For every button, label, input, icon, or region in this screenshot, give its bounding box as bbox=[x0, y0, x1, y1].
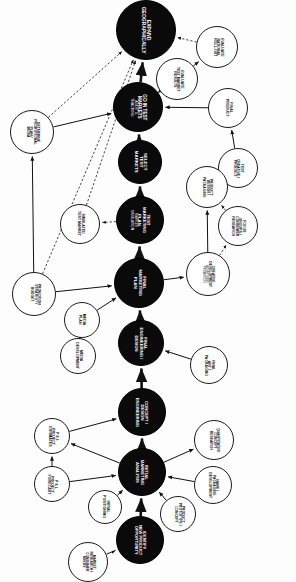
node-test-marketing-plan[interactable]: TESTMARKETINGPLANMARKETSIMULATION bbox=[116, 196, 164, 244]
edge-test-marketing-plan-to-simulated-test-market bbox=[102, 222, 116, 223]
label-line: FORECAST bbox=[47, 474, 51, 494]
label-line: PACKAGING bbox=[202, 177, 205, 197]
node-expand-geographically[interactable]: EXPANDGEOGRAPHICALLY bbox=[116, 0, 176, 60]
edge-market-research-consumer-needs-to-identify-opportunity bbox=[106, 550, 115, 554]
edge-product-prototype-concept-to-initial-marketing-analysis bbox=[159, 492, 166, 500]
node-final-engineering-design[interactable]: FINALENGINEERING /DESIGN bbox=[118, 320, 164, 366]
node-label-initial-positioning: INITIALPOSITIONING bbox=[101, 496, 108, 519]
node-label-creative-development: CREATIVEDEVELOPMENTADVERTISINGPROMOTION bbox=[202, 261, 214, 287]
node-concept-design-engineering[interactable]: CONCEPT /DESIGNENGINEERING bbox=[118, 388, 166, 436]
node-label-identify-opportunity: IDENTIFYNEW PRODUCTOPPORTUNITY bbox=[134, 525, 146, 555]
edge-determine-promotional-plan-media-to-expand-geographically bbox=[48, 52, 121, 118]
label-line: MARKETING bbox=[140, 459, 144, 484]
node-label-test-marketing-plan: TESTMARKETINGPLANMARKETSIMULATION bbox=[130, 207, 150, 233]
label-line: FINAL bbox=[228, 103, 232, 114]
node-simulated-test-market[interactable]: SIMULATEDTEST MARKET bbox=[60, 204, 100, 244]
label-line: PLAN bbox=[78, 315, 82, 325]
label-line: DEVELOPMENT bbox=[208, 472, 211, 498]
edge-final-art-packaging-to-final-engineering-design bbox=[165, 351, 191, 359]
edge-evaluate-test-market-results-to-evaluate-national-roll-out bbox=[193, 62, 198, 66]
node-label-expand-geographically: EXPANDGEOGRAPHICALLY bbox=[141, 7, 151, 54]
edge-media-plan-to-final-marketing-plan bbox=[97, 298, 116, 310]
edge-promotion-strategy-to-final-marketing-plan bbox=[56, 286, 112, 292]
label-line: PACKAGING bbox=[204, 354, 208, 375]
edge-identify-opportunity-to-initial-marketing-analysis bbox=[141, 498, 142, 516]
node-label-quantitative-concept-research: QUANTITATIVECONCEPTRESEARCH bbox=[209, 428, 219, 453]
label-line: CONCEPT bbox=[173, 506, 176, 523]
label-line: RESULTS bbox=[172, 71, 176, 87]
label-line: TEST bbox=[240, 164, 244, 173]
label-line: PRODUCT bbox=[224, 99, 228, 117]
label-line: DESIGN bbox=[135, 335, 139, 351]
label-line: TEST MARKET bbox=[76, 212, 80, 237]
node-final-marketing-plan[interactable]: FINALMARKETINGPLAN bbox=[114, 258, 164, 308]
node-label-pl-project-estimates: P & LPROJECTESTIMATES bbox=[47, 426, 58, 446]
node-pl-project-forecast[interactable]: P & LPROJECTFORECAST bbox=[34, 466, 70, 502]
label-line: NEEDS bbox=[81, 556, 84, 567]
edge-promotion-strategy-to-determine-promotional-plan-media bbox=[32, 157, 33, 273]
label-line: ROLL-OUT bbox=[212, 38, 216, 56]
label-line: RESEARCH bbox=[209, 430, 212, 449]
label-subline: PROMOTION bbox=[202, 266, 205, 282]
node-quantitative-concept-research[interactable]: QUANTITATIVECONCEPTRESEARCH bbox=[194, 420, 234, 460]
node-label-initial-marketing-analysis: INITIALMARKETINGANALYSIS bbox=[136, 459, 149, 484]
node-select-test-markets[interactable]: SELECTTESTMARKETS bbox=[118, 140, 162, 184]
label-line: ENGINEERING / bbox=[139, 327, 143, 359]
node-final-art-packaging[interactable]: FINALART /PACKAGING bbox=[190, 346, 228, 384]
label-subline: TRACKING bbox=[130, 98, 134, 117]
node-label-determine-promotional-plan-media: DETERMINEPROMOTIONALPLAN /MEDIA bbox=[25, 119, 39, 144]
edge-go-in-test-markets-to-expand-geographically bbox=[141, 62, 143, 82]
node-initial-positioning[interactable]: INITIALPOSITIONING bbox=[88, 490, 122, 524]
node-label-simulated-test-market: SIMULATEDTEST MARKET bbox=[76, 212, 83, 237]
node-label-final-product: FINALPRODUCT bbox=[224, 99, 231, 117]
label-line: MARKETS bbox=[133, 151, 137, 173]
edge-simulated-test-market-to-expand-geographically bbox=[86, 61, 135, 205]
label-line: PLAN bbox=[132, 277, 136, 289]
node-label-pl-project-forecast: P & LPROJECTFORECAST bbox=[47, 474, 58, 494]
edge-pl-project-forecast-to-initial-marketing-analysis bbox=[70, 476, 116, 482]
node-media-development[interactable]: MEDIADEVELOPMENT bbox=[60, 338, 96, 374]
node-product-prototype-concept[interactable]: PRODUCTPROTOTYPE /CONCEPT bbox=[160, 496, 196, 532]
node-media-plan[interactable]: MEDIAPLAN bbox=[64, 302, 100, 338]
label-line: POSITIONING bbox=[101, 496, 105, 519]
label-line: MEDIA bbox=[82, 314, 86, 326]
label-line: GEOGRAPHICALLY bbox=[141, 7, 146, 54]
node-label-product-prototype-concept: PRODUCTPROTOTYPE /CONCEPT bbox=[173, 503, 183, 526]
label-line: DEVELOPMENT bbox=[74, 343, 78, 370]
node-product-design-packaging[interactable]: PRODUCTDESIGN /PACKAGING bbox=[186, 166, 228, 208]
node-pl-project-estimates[interactable]: P & LPROJECTESTIMATES bbox=[34, 418, 70, 454]
edge-determine-promotional-plan-media-to-go-in-test-markets bbox=[53, 113, 111, 127]
node-evaluate-test-market-results[interactable]: EVALUATETEST MARKETRESULTS bbox=[156, 58, 198, 100]
node-name-packaging-development[interactable]: NAME /PACKAGINGDEVELOPMENT bbox=[194, 466, 232, 504]
edge-initial-positioning-to-initial-marketing-analysis bbox=[117, 490, 122, 495]
node-label-name-packaging-development: NAME /PACKAGINGDEVELOPMENT bbox=[208, 472, 218, 498]
node-label-final-art-packaging: FINALART /PACKAGING bbox=[204, 354, 215, 375]
node-market-research-consumer-needs[interactable]: MARKETRESEARCH /CONSUMERNEEDS bbox=[68, 542, 108, 582]
node-label-go-in-test-markets: GO IN TESTMARKETSAUDIT &TRACKING bbox=[130, 94, 147, 120]
diagram-canvas: EXPANDGEOGRAPHICALLYEVALUATENATIONALROLL… bbox=[0, 0, 296, 582]
node-initial-marketing-analysis[interactable]: INITIALMARKETINGANALYSIS bbox=[118, 448, 166, 496]
edge-name-packaging-development-to-initial-marketing-analysis bbox=[168, 477, 194, 482]
label-line: FINAL bbox=[211, 360, 215, 370]
node-identify-opportunity[interactable]: IDENTIFYNEW PRODUCTOPPORTUNITY bbox=[116, 516, 164, 564]
edge-initial-marketing-analysis-to-quantitative-concept-research bbox=[164, 449, 194, 462]
node-go-in-test-markets[interactable]: GO IN TESTMARKETSAUDIT &TRACKING bbox=[113, 82, 163, 132]
node-label-market-research-consumer-needs: MARKETRESEARCH /CONSUMERNEEDS bbox=[81, 552, 94, 572]
node-determine-promotional-plan-media[interactable]: DETERMINEPROMOTIONALPLAN /MEDIA bbox=[10, 110, 54, 154]
node-label-promotion-strategy: PROMOTIONSTRATEGY /BUDGET bbox=[29, 284, 39, 305]
node-final-product[interactable]: FINALPRODUCT bbox=[208, 88, 248, 128]
label-line: PRODUCT bbox=[233, 159, 237, 176]
edge-final-marketing-plan-to-creative-development bbox=[164, 277, 184, 280]
node-label-product-design-packaging: PRODUCTDESIGN /PACKAGING bbox=[202, 177, 212, 197]
node-label-test-creative-product: TESTCREATIVE /PRODUCT bbox=[233, 158, 244, 177]
node-promotion-strategy[interactable]: PROMOTIONSTRATEGY /BUDGET bbox=[12, 272, 56, 316]
node-focus-groups[interactable]: FOCUSGROUPS /CONSUMERRESEARCH bbox=[218, 206, 258, 246]
label-subline: SIMULATION bbox=[130, 210, 133, 230]
node-label-final-marketing-plan: FINALMARKETINGPLAN bbox=[132, 270, 145, 297]
node-label-select-test-markets: SELECTTESTMARKETS bbox=[133, 151, 146, 173]
label-line: BUDGET bbox=[29, 287, 32, 301]
node-label-media-development: MEDIADEVELOPMENT bbox=[74, 343, 81, 370]
node-creative-development[interactable]: CREATIVEDEVELOPMENTADVERTISINGPROMOTION bbox=[186, 252, 230, 296]
edge-evaluate-national-roll-out-to-expand-geographically bbox=[178, 38, 197, 43]
node-evaluate-national-roll-out[interactable]: EVALUATENATIONALROLL-OUT bbox=[196, 26, 238, 68]
